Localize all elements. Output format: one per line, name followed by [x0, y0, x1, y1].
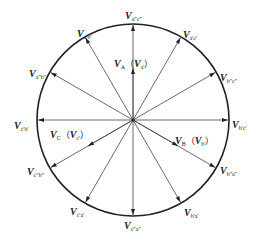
vector-symbol: V — [232, 119, 239, 130]
origin-dot — [132, 119, 135, 122]
paren-open: （ — [125, 59, 134, 69]
outer-vector-9 — [38, 118, 133, 122]
outer-vector-2 — [133, 73, 215, 121]
arrowhead-icon — [86, 196, 91, 202]
vector-subscript: a'b' — [84, 34, 92, 40]
arrowhead-icon — [38, 118, 44, 122]
arrowhead-icon — [209, 73, 215, 78]
arrowhead-icon — [51, 163, 57, 168]
arrowhead-icon — [209, 163, 215, 168]
vector-symbol: V — [175, 135, 182, 146]
arrowhead-icon — [176, 196, 181, 202]
outer-vector-label: Vc'a' — [70, 202, 84, 218]
vector-symbol: V — [114, 58, 121, 69]
vector-subscript: a"c" — [132, 16, 142, 22]
outer-vector-label: Vb'a' — [184, 203, 199, 219]
vector-symbol: V — [134, 58, 141, 69]
vector-subscript: a"b" — [36, 74, 47, 80]
outer-vector-label: Vb'c' — [232, 115, 247, 131]
outer-vector-label: Vc'b' — [14, 116, 29, 132]
vector-symbol: V — [184, 207, 191, 218]
outer-vector-label: Vc"a" — [124, 216, 141, 232]
vector-subscript: b'a' — [191, 213, 199, 219]
vector-subscript: c'b' — [21, 126, 29, 132]
vector-symbol: V — [183, 29, 190, 40]
paren-open: （ — [61, 130, 70, 140]
vector-symbol: V — [70, 206, 77, 217]
outer-vector-11 — [86, 38, 134, 120]
outer-vector-7 — [86, 120, 134, 202]
outer-vector-6 — [131, 120, 135, 215]
vector-subscript: b"c" — [227, 78, 238, 84]
paren-close: ） — [205, 136, 214, 146]
phase-vector-1 — [133, 120, 178, 146]
vector-subscript: c"a" — [131, 226, 141, 232]
vector-diagram-svg — [0, 0, 258, 242]
vector-symbol: V — [220, 165, 227, 176]
outer-vector-label: Vc"b" — [27, 162, 44, 178]
arrowhead-icon — [88, 141, 94, 146]
paren-close: ） — [80, 130, 89, 140]
arrowhead-icon — [131, 209, 135, 215]
outer-vector-label: Va"c" — [125, 6, 142, 22]
outer-vector-label: Vb"a" — [220, 161, 237, 177]
phase-vector-label: VA（Va'） — [114, 54, 153, 70]
vector-symbol: V — [124, 220, 131, 231]
paren-open: （ — [186, 136, 195, 146]
phase-vector-2 — [88, 120, 133, 146]
phase-vector-0 — [131, 68, 135, 120]
arrowhead-icon — [176, 38, 181, 44]
vector-subscript: a'c' — [190, 35, 198, 41]
outer-vector-1 — [133, 38, 181, 120]
outer-vector-5 — [133, 120, 181, 202]
vector-symbol: V — [77, 28, 84, 39]
vector-symbol: V — [50, 129, 57, 140]
vector-symbol: V — [27, 166, 34, 177]
paren-close: ） — [144, 59, 153, 69]
vector-symbol: V — [14, 120, 21, 131]
space-vector-diagram: Va"c"Va'c'Vb"c"Vb'c'Vb"a"Vb'a'Vc"a"Vc'a'… — [0, 0, 258, 242]
arrowhead-icon — [131, 25, 135, 31]
outer-vector-10 — [51, 73, 133, 121]
outer-vector-3 — [133, 118, 228, 122]
vector-subscript: c"b" — [34, 172, 45, 178]
vector-symbol: V — [220, 72, 227, 83]
vector-symbol: V — [125, 10, 132, 21]
outer-vector-label: Va'b' — [77, 24, 92, 40]
outer-vector-label: Va"b" — [29, 64, 46, 80]
vector-subscript: b"a" — [227, 171, 238, 177]
phase-vector-label: VC（Vc'） — [50, 125, 89, 141]
outer-vector-label: Vb"c" — [220, 68, 237, 84]
vector-subscript: b'c' — [239, 125, 247, 131]
vector-symbol: V — [29, 68, 36, 79]
phase-vector-label: VB（Vb'） — [175, 131, 214, 147]
outer-vector-label: Va'c' — [183, 25, 197, 41]
vector-subscript: c'a' — [77, 212, 85, 218]
arrowhead-icon — [51, 73, 57, 78]
arrowhead-icon — [222, 118, 228, 122]
